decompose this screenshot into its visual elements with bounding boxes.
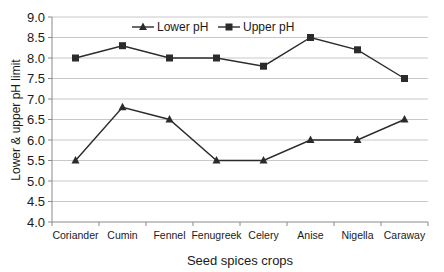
y-tick-label: 8.0 — [27, 51, 45, 66]
x-tick-label: Anise — [297, 229, 323, 241]
x-tick-label: Caraway — [384, 229, 426, 241]
square-marker-icon — [260, 63, 267, 70]
y-tick-label: 7.0 — [27, 92, 45, 107]
x-tick-label: Fenugreek — [191, 229, 242, 241]
triangle-marker-icon — [307, 136, 315, 144]
square-marker-icon — [119, 42, 126, 49]
legend-item-upper-ph: Upper pH — [218, 20, 294, 34]
x-axis-title: Seed spices crops — [187, 253, 294, 268]
y-tick-label: 5.0 — [27, 174, 45, 189]
y-tick-label: 9.0 — [27, 10, 45, 25]
x-tick-label: Nigella — [341, 229, 373, 241]
series-line — [76, 107, 405, 160]
x-tick-label: Celery — [248, 229, 279, 241]
legend: Lower pHUpper pH — [132, 20, 294, 34]
y-tick-label: 7.5 — [27, 71, 45, 86]
square-marker-icon — [307, 34, 314, 41]
x-axis: CorianderCuminFennelFenugreekCeleryAnise… — [52, 222, 428, 241]
triangle-marker-icon — [139, 23, 147, 31]
y-tick-label: 5.5 — [27, 153, 45, 168]
ph-limit-line-chart: 4.04.55.05.56.06.57.07.58.08.59.0 Corian… — [0, 0, 444, 272]
y-tick-label: 6.0 — [27, 133, 45, 148]
x-tick-label: Fennel — [153, 229, 185, 241]
square-marker-icon — [401, 75, 408, 82]
legend-label: Lower pH — [157, 20, 208, 34]
y-tick-label: 4.5 — [27, 194, 45, 209]
series-lower-ph — [72, 103, 409, 164]
legend-item-lower-ph: Lower pH — [132, 20, 208, 34]
square-marker-icon — [166, 55, 173, 62]
square-marker-icon — [354, 46, 361, 53]
triangle-marker-icon — [401, 115, 409, 123]
x-tick-label: Cumin — [107, 229, 138, 241]
y-axis-title: Lower & upper pH limit — [9, 59, 23, 181]
triangle-marker-icon — [213, 156, 221, 164]
square-marker-icon — [72, 55, 79, 62]
y-axis: 4.04.55.05.56.06.57.07.58.08.59.0 — [27, 10, 52, 230]
triangle-marker-icon — [119, 103, 127, 111]
legend-label: Upper pH — [243, 20, 294, 34]
gridlines — [52, 17, 428, 202]
y-tick-label: 4.0 — [27, 215, 45, 230]
square-marker-icon — [226, 24, 233, 31]
y-tick-label: 6.5 — [27, 112, 45, 127]
y-tick-label: 8.5 — [27, 30, 45, 45]
x-tick-label: Coriander — [52, 229, 99, 241]
square-marker-icon — [213, 55, 220, 62]
